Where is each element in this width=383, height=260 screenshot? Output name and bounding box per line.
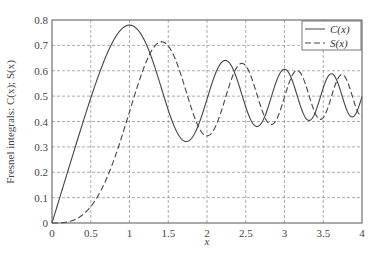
svg-text:0.6: 0.6 — [34, 65, 48, 77]
svg-text:0.7: 0.7 — [34, 39, 48, 51]
series-c-line — [52, 25, 362, 223]
svg-text:0.4: 0.4 — [34, 116, 48, 128]
plot-curves — [52, 25, 362, 223]
legend-s: S(x) — [330, 37, 348, 50]
grid-lines — [52, 20, 362, 223]
svg-text:0.8: 0.8 — [34, 14, 48, 26]
y-axis-label: Fresnel integrals: C(x); S(x) — [4, 60, 17, 184]
svg-text:3: 3 — [282, 227, 288, 239]
svg-text:0: 0 — [49, 227, 55, 239]
svg-text:2.5: 2.5 — [239, 227, 253, 239]
fresnel-chart: 00.511.522.533.5400.10.20.30.40.50.60.70… — [0, 0, 383, 260]
legend-c: C(x) — [330, 23, 350, 36]
svg-text:1.5: 1.5 — [161, 227, 175, 239]
svg-text:4: 4 — [359, 227, 365, 239]
legend: C(x) S(x) — [302, 21, 361, 50]
svg-text:0.5: 0.5 — [34, 90, 48, 102]
svg-text:0.3: 0.3 — [34, 141, 48, 153]
svg-text:1: 1 — [127, 227, 133, 239]
svg-text:0: 0 — [43, 217, 49, 229]
svg-text:0.5: 0.5 — [84, 227, 98, 239]
svg-text:3.5: 3.5 — [316, 227, 330, 239]
svg-text:0.2: 0.2 — [34, 166, 48, 178]
x-axis-label: x — [204, 235, 210, 247]
svg-text:0.1: 0.1 — [34, 192, 48, 204]
